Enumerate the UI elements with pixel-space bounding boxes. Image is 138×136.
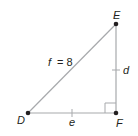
side-d-label: d (123, 64, 130, 76)
vertex-e-label: E (113, 9, 121, 21)
vertex-d-label: D (17, 114, 25, 126)
vertex-f-point (114, 111, 119, 116)
vertex-e-point (114, 22, 119, 27)
side-f-label: f = 8 (48, 52, 73, 69)
side-f-hypotenuse (28, 24, 116, 113)
triangle-diagram: E D F f = 8 d e (0, 0, 138, 136)
side-f-var: f (48, 56, 52, 68)
vertex-d-point (26, 111, 31, 116)
side-f-value: = 8 (57, 56, 73, 68)
vertex-f-label: F (116, 117, 124, 129)
side-e-label: e (69, 116, 75, 128)
